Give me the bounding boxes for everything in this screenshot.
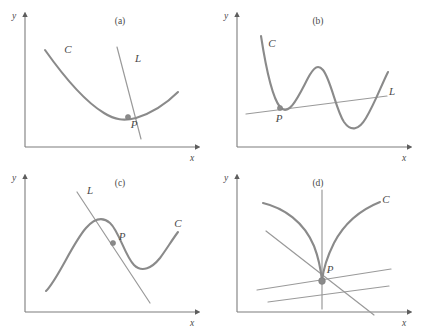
- y-axis-label-c: y: [11, 173, 17, 183]
- figure-svg: (a)yxLCP(b)yxLCP(c)yxLCP(d)yxCP: [0, 0, 421, 329]
- panel-c: (c)yxLCP: [11, 173, 196, 328]
- curve-label-a: C: [64, 43, 72, 55]
- figure-container: (a)yxLCP(b)yxLCP(c)yxLCP(d)yxCP: [0, 0, 421, 329]
- tangent-label-a-1: L: [134, 52, 141, 64]
- point-label-a: P: [130, 118, 138, 130]
- x-axis-label-b: x: [401, 153, 407, 163]
- curve-label-c: C: [174, 217, 182, 229]
- curve-c: [46, 219, 178, 291]
- panel-caption-a: (a): [115, 16, 126, 27]
- panel-b: (b)yxLCP: [223, 11, 408, 163]
- panel-a: (a)yxLCP: [11, 11, 196, 163]
- point-marker-c: [110, 240, 115, 245]
- panel-caption-b: (b): [312, 16, 323, 27]
- x-axis-label-c: x: [189, 318, 195, 328]
- panel-caption-d: (d): [312, 178, 323, 189]
- tangent-label-c-1: L: [86, 184, 93, 196]
- tangent-line-b-1: [246, 96, 387, 114]
- point-label-c: P: [118, 230, 126, 242]
- point-label-d: P: [326, 263, 334, 275]
- x-axis-label-d: x: [401, 318, 407, 328]
- curve-label-d: C: [382, 193, 390, 205]
- curve-a: [45, 50, 178, 120]
- x-axis-label-a: x: [189, 153, 195, 163]
- y-axis-label-a: y: [11, 11, 17, 21]
- panel-d: (d)yxCP: [223, 173, 408, 328]
- tangent-line-c-1: [77, 192, 150, 303]
- y-axis-label-b: y: [223, 11, 229, 21]
- tangent-label-b-1: L: [388, 85, 395, 97]
- panels-root: (a)yxLCP(b)yxLCP(c)yxLCP(d)yxCP: [11, 11, 408, 328]
- point-marker-b: [277, 105, 282, 110]
- panel-caption-c: (c): [115, 178, 126, 189]
- curve-label-b: C: [268, 37, 276, 49]
- tangent-line-d-4: [268, 286, 389, 302]
- point-label-b: P: [275, 112, 283, 124]
- y-axis-label-d: y: [223, 173, 229, 183]
- point-marker-d: [319, 278, 326, 285]
